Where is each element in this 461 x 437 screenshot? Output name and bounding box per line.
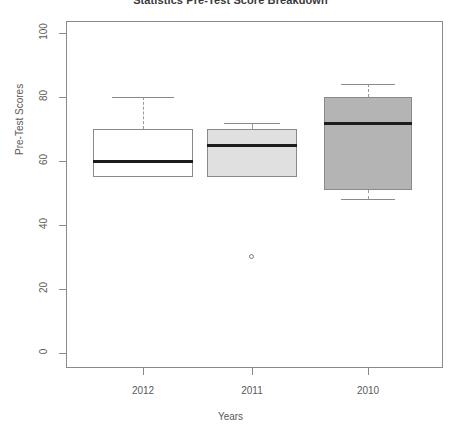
box-rect-2012 [93, 129, 193, 177]
upper-whisker-cap [224, 123, 280, 124]
y-tick-label: 60 [38, 147, 49, 173]
y-tick-mark [59, 289, 66, 290]
y-tick-mark [59, 97, 66, 98]
box-rect-2011 [207, 129, 297, 177]
y-axis-title: Pre-Test Scores [14, 84, 25, 155]
chart-title: Statistics Pre-Test Score Breakdown [0, 0, 461, 6]
x-axis-title: Years [0, 411, 461, 422]
x-tick-label-2012: 2012 [113, 385, 173, 396]
y-tick-mark [59, 353, 66, 354]
y-tick-mark [59, 161, 66, 162]
upper-whisker-cap [112, 97, 174, 98]
median-line-2010 [324, 122, 412, 125]
y-tick-label: 0 [38, 339, 49, 365]
upper-whisker-line [368, 84, 370, 97]
x-tick-mark [252, 368, 253, 375]
y-tick-label: 100 [38, 19, 49, 45]
x-tick-label-2011: 2011 [222, 385, 282, 396]
x-tick-label-2010: 2010 [338, 385, 398, 396]
lower-whisker-line [368, 190, 370, 200]
lower-whisker-cap [341, 199, 396, 200]
y-tick-mark [59, 225, 66, 226]
median-line-2011 [207, 144, 297, 147]
plot-area [66, 21, 443, 368]
y-tick-label: 20 [38, 275, 49, 301]
y-tick-label: 40 [38, 211, 49, 237]
boxplot-chart: Statistics Pre-Test Score Breakdown Pre-… [0, 0, 461, 437]
y-tick-label: 80 [38, 83, 49, 109]
y-tick-mark [59, 33, 66, 34]
x-tick-mark [143, 368, 144, 375]
upper-whisker-cap [341, 84, 396, 85]
upper-whisker-line [143, 97, 145, 129]
outlier-point [249, 254, 254, 259]
box-rect-2010 [324, 97, 412, 190]
median-line-2012 [93, 160, 193, 163]
x-tick-mark [368, 368, 369, 375]
